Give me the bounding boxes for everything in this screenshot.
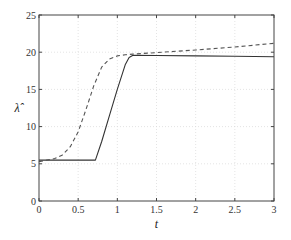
y-tick-label: 15 (26, 84, 36, 95)
x-tick-label: 0 (37, 204, 42, 215)
y-tick-label: 0 (31, 196, 36, 207)
grid-lines (39, 15, 274, 201)
x-tick-label: 2 (193, 204, 198, 215)
y-tick-label: 5 (31, 158, 36, 169)
axis-ticks: 00.511.522.530510152025 (26, 10, 277, 216)
x-tick-label: 2.5 (229, 204, 242, 215)
y-axis-label: λ̂ (13, 101, 24, 115)
x-axis-label: t (155, 217, 159, 231)
line-chart: 00.511.522.530510152025 t λ̂ (0, 0, 291, 240)
x-tick-label: 1 (115, 204, 120, 215)
x-tick-label: 3 (272, 204, 277, 215)
y-tick-label: 10 (26, 121, 36, 132)
x-tick-label: 1.5 (150, 204, 163, 215)
x-tick-label: 0.5 (72, 204, 85, 215)
y-tick-label: 20 (26, 47, 36, 58)
y-tick-label: 25 (26, 10, 36, 21)
